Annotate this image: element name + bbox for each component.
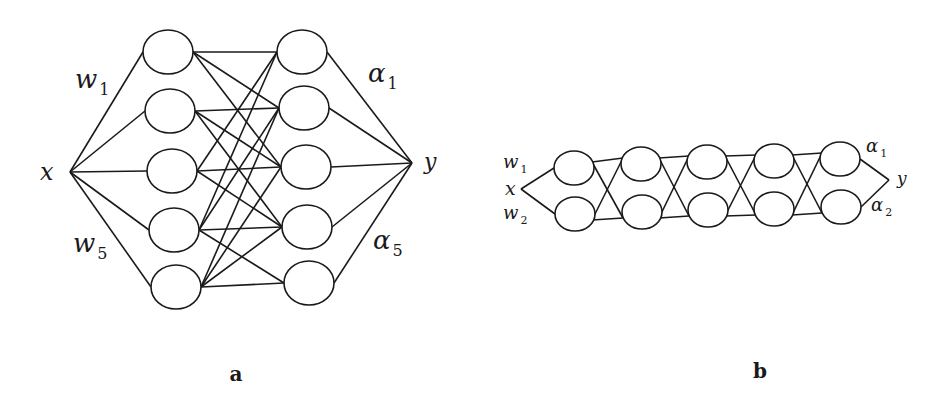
hidden-edge [201,283,284,287]
weight-label: w5 [73,228,107,263]
output-edge [331,163,412,167]
node-circle [145,89,195,133]
input-edge [521,189,555,214]
output-edge [329,108,412,163]
node-circle [151,265,201,309]
diagram-b-nodes [554,142,861,231]
weight-label: w1 [75,64,109,99]
diagram-a-fully-connected-network: x y w1w5α1α5 a [40,30,437,386]
weight-label: α5 [373,225,403,260]
output-edge [860,159,889,180]
diagram-b-chain-network: x y w1w2α1α2 b [503,135,907,383]
weight-label: α2 [871,194,892,219]
diagram-a-caption: a [230,362,243,386]
node-circle [687,145,727,179]
weight-label: w1 [503,151,527,176]
node-circle [820,142,860,176]
diagram-a-input-label: x [40,158,54,186]
node-circle [284,261,334,305]
node-circle [622,195,662,229]
node-circle [555,197,595,231]
hidden-edge [201,227,282,287]
neural-network-figure: x y w1w5α1α5 a x y w1w2α1α2 b [0,0,941,395]
node-circle [821,190,861,224]
hidden-edge [659,156,689,158]
diagram-b-output-label: y [896,168,907,188]
hidden-edge [199,108,279,230]
node-circle [621,147,661,181]
output-edge [334,163,412,283]
weight-label: α1 [866,135,887,160]
input-edge [70,111,145,172]
node-circle [688,193,728,227]
hidden-edge [725,155,756,156]
hidden-edge [592,158,623,162]
node-circle [149,208,199,252]
hidden-edge [792,153,822,155]
hidden-edge [659,216,689,218]
diagram-b-caption: b [753,359,767,383]
node-circle [281,145,331,189]
weight-label: α1 [368,58,398,93]
hidden-edge [197,52,277,171]
node-circle [282,205,332,249]
node-circle [147,149,197,193]
input-edge [70,172,149,230]
weight-label: w2 [503,202,527,227]
hidden-edge [195,111,281,167]
node-circle [277,30,327,74]
node-circle [754,144,794,178]
diagram-b-input-label: x [505,177,516,199]
hidden-edge [792,213,822,215]
node-circle [554,151,594,185]
hidden-edge [725,215,756,216]
node-circle [754,192,794,226]
diagram-a-edges [70,52,412,287]
node-circle [143,30,193,74]
hidden-edge [592,218,623,220]
output-edge [332,163,412,227]
diagram-a-output-label: y [423,149,437,174]
hidden-edge [193,52,279,108]
node-circle [279,86,329,130]
input-edge [70,171,147,172]
